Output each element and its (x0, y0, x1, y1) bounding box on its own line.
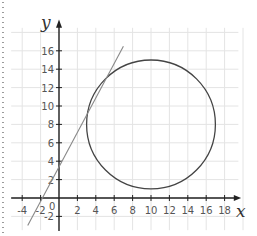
y-tick-label: 14 (41, 64, 54, 75)
y-axis-arrow-icon (56, 20, 62, 28)
x-tick-label: 10 (145, 205, 158, 216)
y-tick-label: 4 (48, 156, 54, 167)
coordinate-plane: -4-224681012141618-2246810121416 x y 0 (0, 0, 257, 236)
x-tick-label: 6 (111, 205, 117, 216)
x-tick-label: 14 (181, 205, 194, 216)
x-tick-label: 4 (93, 205, 99, 216)
x-tick-label: -4 (17, 205, 27, 216)
grid (11, 28, 243, 230)
y-tick-label: 10 (41, 101, 54, 112)
x-tick-label: 2 (74, 205, 80, 216)
y-axis-label: y (40, 12, 51, 32)
y-tick-label: 8 (48, 119, 54, 130)
y-tick-label: 2 (48, 175, 54, 186)
x-tick-label: 8 (129, 205, 135, 216)
x-axis-label: x (236, 201, 246, 221)
y-tick-label: -2 (44, 211, 54, 222)
x-tick-label: 16 (200, 205, 213, 216)
y-tick-label: 12 (41, 83, 54, 94)
origin-label: 0 (49, 201, 55, 212)
y-tick-label: 6 (48, 138, 54, 149)
x-tick-label: 12 (163, 205, 176, 216)
y-tick-label: 16 (41, 46, 54, 57)
x-tick-label: 18 (218, 205, 231, 216)
tick-labels: -4-224681012141618-2246810121416 (17, 46, 231, 223)
